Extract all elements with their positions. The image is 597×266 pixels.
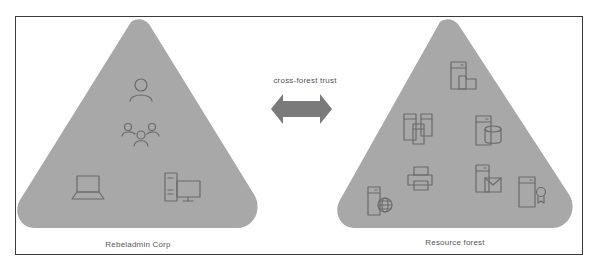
right-forest-label: Resource forest xyxy=(425,238,484,247)
diagram-canvas xyxy=(0,0,597,266)
connector-label: cross-forest trust xyxy=(273,76,336,85)
bidirectional-arrow-icon xyxy=(271,94,332,124)
left-forest-label: Rebeladmin Corp xyxy=(105,240,170,249)
left-forest-triangle xyxy=(17,19,257,228)
right-forest-triangle xyxy=(337,19,572,228)
